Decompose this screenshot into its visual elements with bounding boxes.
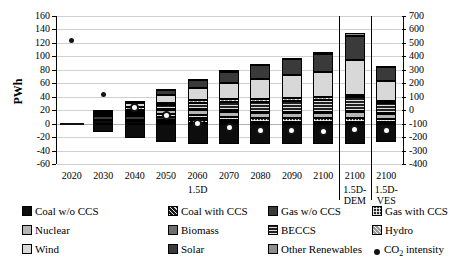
legend-item[interactable]: Other Renewables: [268, 243, 362, 255]
y-tick-mark-left: [52, 43, 56, 44]
y-tick-label-left: -60: [16, 159, 50, 169]
legend-item[interactable]: Hydro: [372, 224, 413, 236]
bar-segment: [313, 118, 333, 121]
y-tick-label-left: 140: [16, 24, 50, 34]
legend-item[interactable]: Coal w/o CCS: [22, 205, 99, 217]
group-separator: [371, 16, 372, 200]
legend-label: Coal w/o CCS: [35, 205, 99, 217]
y-tick-label-left: 60: [16, 78, 50, 88]
y-tick-label-right: -100: [409, 119, 447, 129]
bar-segment: [156, 124, 176, 142]
bar-segment: [376, 103, 396, 112]
co2-intensity-marker: [101, 92, 106, 97]
legend-swatch: [22, 206, 32, 216]
bar-segment: [219, 110, 239, 112]
y-tick-mark-right: [402, 16, 406, 17]
bar-segment: [188, 100, 208, 103]
bar-segment: [219, 72, 239, 83]
bar-segment: [156, 95, 176, 103]
bar-segment: [345, 36, 365, 60]
y-tick-mark-right: [402, 56, 406, 57]
legend-item[interactable]: Nuclear: [22, 224, 70, 236]
bar-segment: [282, 75, 302, 98]
bar-segment: [219, 102, 239, 110]
bar-segment: [345, 33, 365, 35]
bar-segment: [313, 97, 333, 100]
y-tick-mark-left: [52, 124, 56, 125]
y-tick-label-right: -400: [409, 159, 447, 169]
bar-column[interactable]: [282, 0, 302, 164]
y-tick-mark-right: [402, 110, 406, 111]
bar-segment: [250, 112, 270, 114]
bar-column[interactable]: [313, 0, 333, 164]
bar-segment: [93, 116, 113, 119]
legend-label: Coal with CCS: [181, 205, 248, 217]
bar-column[interactable]: [188, 0, 208, 164]
legend-swatch: [268, 206, 278, 216]
y-tick-mark-left: [52, 110, 56, 111]
y-tick-label-left: 0: [16, 119, 50, 129]
co2-intensity-marker: [69, 38, 74, 43]
y-tick-mark-right: [402, 29, 406, 30]
legend-item[interactable]: BECCS: [268, 224, 316, 236]
legend-item[interactable]: Gas with CCS: [372, 205, 448, 217]
legend-label: Hydro: [385, 224, 413, 236]
legend-swatch: [168, 244, 178, 254]
bar-column[interactable]: [250, 0, 270, 164]
x-group-label: 1.5D-VES: [362, 184, 410, 206]
y-tick-mark-left: [52, 164, 56, 165]
y-tick-label-left: -20: [16, 132, 50, 142]
bar-column[interactable]: [345, 0, 365, 164]
legend-item[interactable]: Biomass: [168, 224, 219, 236]
legend-item[interactable]: Solar: [168, 243, 204, 255]
bar-segment: [345, 97, 365, 110]
y-tick-label-right: 700: [409, 11, 447, 21]
bar-segment: [93, 110, 113, 112]
y-tick-mark-right: [402, 70, 406, 71]
bar-segment: [376, 113, 396, 115]
bar-segment: [219, 70, 239, 72]
y-tick-label-right: 300: [409, 65, 447, 75]
y-tick-mark-left: [52, 29, 56, 30]
chart-legend: Coal w/o CCSCoal with CCSGas w/o CCSGas …: [0, 205, 466, 277]
bar-column[interactable]: [93, 0, 113, 164]
bar-segment: [250, 99, 270, 102]
y-tick-label-right: 400: [409, 51, 447, 61]
y-tick-label-left: 100: [16, 51, 50, 61]
legend-swatch: [168, 206, 178, 216]
y-tick-mark-left: [52, 16, 56, 17]
bar-segment: [219, 112, 239, 117]
y-tick-label-right: 600: [409, 24, 447, 34]
y-tick-mark-right: [402, 137, 406, 138]
x-group-label: 1.5D: [174, 184, 222, 195]
bar-column[interactable]: [62, 0, 82, 164]
bar-column[interactable]: [219, 0, 239, 164]
bar-segment: [376, 119, 396, 122]
bar-segment: [376, 67, 396, 80]
bar-segment: [219, 117, 239, 120]
bar-segment: [313, 100, 333, 111]
y-tick-label-right: 0: [409, 105, 447, 115]
x-tick-label: 2100: [366, 170, 406, 181]
legend-item[interactable]: Gas w/o CCS: [268, 205, 341, 217]
co2-intensity-marker: [319, 127, 328, 136]
bar-column[interactable]: [125, 0, 145, 164]
y-tick-mark-right: [402, 151, 406, 152]
plot-wrapper: PWh gCO2/KWh -60-40-20020406080100120140…: [0, 0, 466, 200]
bar-segment: [250, 118, 270, 121]
bar-zero-stub: [60, 123, 84, 125]
bar-segment: [219, 83, 239, 99]
legend-swatch: [168, 225, 178, 235]
bar-column[interactable]: [376, 0, 396, 164]
legend-swatch: [22, 244, 32, 254]
co2-intensity-marker: [162, 111, 171, 120]
legend-item-co2-intensity[interactable]: CO2 intensity: [374, 243, 444, 260]
bar-segment: [313, 52, 333, 54]
legend-item[interactable]: Coal with CCS: [168, 205, 248, 217]
bar-column[interactable]: [156, 0, 176, 164]
legend-label: Gas w/o CCS: [281, 205, 341, 217]
legend-item[interactable]: Wind: [22, 243, 59, 255]
legend-label: Wind: [35, 243, 59, 255]
legend-label: Nuclear: [35, 224, 70, 236]
bar-segment: [250, 64, 270, 66]
